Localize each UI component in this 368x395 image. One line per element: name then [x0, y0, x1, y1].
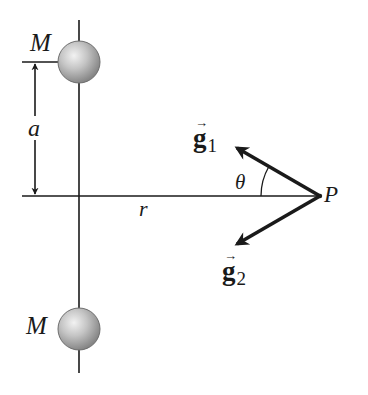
point-label-P: P: [324, 183, 338, 206]
vector-label-g2: → g2: [222, 258, 246, 285]
mass-sphere-top: [58, 41, 100, 83]
angle-label-theta: θ: [235, 172, 245, 193]
vector-label-g1: → g1: [193, 125, 217, 152]
field-vector-g1: [237, 148, 320, 196]
angle-arc-theta: [261, 167, 269, 197]
mass-label-bottom: M: [26, 313, 47, 338]
mass-sphere-bottom: [58, 308, 100, 350]
distance-label-r: r: [139, 198, 148, 220]
point-P-marker: [318, 194, 322, 198]
vector-subscript-1: 1: [208, 135, 218, 156]
mass-label-top: M: [30, 30, 51, 55]
separation-label-a: a: [27, 116, 41, 140]
vector-arrow-icon: →: [195, 116, 208, 129]
field-vector-g2: [237, 196, 320, 244]
vector-arrow-icon: →: [224, 249, 237, 262]
diagram-canvas: [0, 0, 368, 395]
vector-subscript-2: 2: [237, 268, 247, 289]
